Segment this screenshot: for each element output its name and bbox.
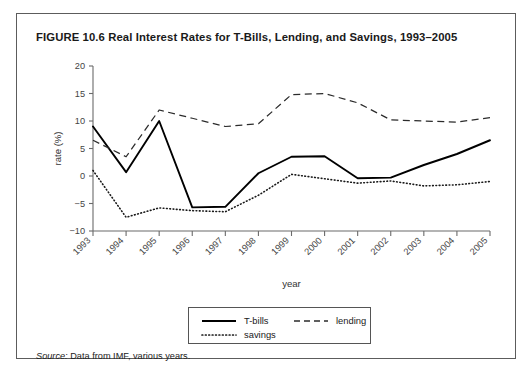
- legend-item-savings: savings: [201, 329, 276, 340]
- x-tick-label: 1997: [203, 235, 225, 257]
- x-tick-label: 2004: [435, 235, 457, 257]
- dashed-line-swatch: [293, 316, 329, 326]
- source-text: Data from IMF, various years.: [68, 351, 191, 361]
- x-tick-label: 2000: [302, 235, 324, 257]
- x-tick-label: 2003: [402, 235, 424, 257]
- x-tick-label: 2005: [468, 235, 490, 257]
- legend-label-lending: lending: [336, 315, 366, 326]
- y-tick-label: 20: [75, 61, 85, 71]
- chart-legend: T-bills lending savings: [188, 307, 371, 344]
- series-line-savings: [93, 171, 490, 218]
- legend-item-t-bills: T-bills: [201, 315, 268, 326]
- x-axis: 1993199419951996199719981999200020012002…: [71, 231, 490, 257]
- series-line-lending: [93, 94, 490, 157]
- legend-item-lending: lending: [293, 315, 366, 326]
- source-note: Source: Data from IMF, various years.: [36, 351, 190, 361]
- x-tick-label: 2002: [369, 235, 391, 257]
- source-label: Source:: [36, 351, 68, 361]
- y-tick-label: 10: [75, 116, 85, 126]
- y-tick-label: −5: [75, 199, 85, 209]
- x-tick-label: 2001: [336, 235, 358, 257]
- x-tick-label: 1996: [170, 235, 192, 257]
- x-tick-label: 1999: [269, 235, 291, 257]
- x-tick-label: 1994: [104, 235, 126, 257]
- y-tick-label: 15: [75, 89, 85, 99]
- legend-label-t-bills: T-bills: [244, 315, 268, 326]
- y-axis-title: rate (%): [52, 131, 63, 165]
- figure-card: FIGURE 10.6 Real Interest Rates for T-Bi…: [16, 13, 516, 359]
- x-tick-label: 1993: [71, 235, 93, 257]
- series-line-t-bills: [93, 121, 490, 207]
- y-tick-label: −10: [69, 226, 85, 236]
- x-axis-title: year: [282, 278, 301, 289]
- legend-label-savings: savings: [244, 329, 276, 340]
- solid-line-swatch: [201, 316, 237, 326]
- dotted-line-swatch: [201, 330, 237, 340]
- chart-series-group: [93, 94, 490, 218]
- y-axis: −10−505101520: [69, 61, 93, 236]
- y-tick-label: 0: [80, 171, 85, 181]
- y-tick-label: 5: [80, 144, 85, 154]
- x-tick-label: 1998: [236, 235, 258, 257]
- x-tick-label: 1995: [137, 235, 159, 257]
